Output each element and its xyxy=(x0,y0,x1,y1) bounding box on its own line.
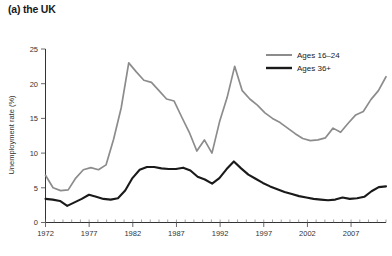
y-tick-label: 0 xyxy=(34,218,38,227)
chart-legend: Ages 16–24Ages 36+ xyxy=(266,51,340,73)
chart-figure: (a) the UK 0510152025 197219771982198719… xyxy=(0,0,392,256)
x-tick-label: 2007 xyxy=(343,229,360,238)
x-axis-ticks: 19721977198219871992199720022007 xyxy=(37,223,359,239)
series-line-young xyxy=(46,63,387,191)
x-tick-label: 1982 xyxy=(124,229,141,238)
legend-label-0: Ages 16–24 xyxy=(297,51,340,60)
data-series-group xyxy=(46,63,387,206)
series-line-older xyxy=(46,161,387,205)
line-chart-plot: 0510152025 19721977198219871992199720022… xyxy=(0,0,392,256)
x-tick-label: 1992 xyxy=(212,229,229,238)
y-tick-label: 15 xyxy=(30,114,38,123)
y-tick-label: 20 xyxy=(30,80,38,89)
y-tick-label: 25 xyxy=(30,45,38,54)
y-tick-label: 5 xyxy=(34,184,38,193)
y-tick-label: 10 xyxy=(30,149,38,158)
x-tick-label: 1972 xyxy=(37,229,54,238)
y-axis-ticks: 0510152025 xyxy=(30,45,46,228)
legend-label-1: Ages 36+ xyxy=(297,64,331,73)
x-tick-label: 1977 xyxy=(81,229,98,238)
y-axis-title: Unemployment rate (%) xyxy=(7,95,16,175)
x-tick-label: 1997 xyxy=(255,229,272,238)
x-tick-label: 1987 xyxy=(168,229,185,238)
x-tick-label: 2002 xyxy=(299,229,316,238)
